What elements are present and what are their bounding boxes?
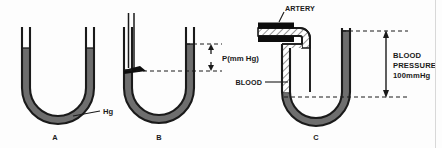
manometer-figure: Hg A <box>0 0 442 148</box>
hg-label: Hg <box>103 107 113 116</box>
blood-label: BLOOD <box>236 78 262 87</box>
artery-label: ARTERY <box>285 4 315 13</box>
panel-a-label: A <box>52 133 58 142</box>
blood-pressure-label-line1: BLOOD <box>393 51 422 60</box>
figure-background <box>0 0 442 148</box>
artery-cuff-bottom <box>258 36 294 42</box>
artery-cuff-top <box>258 23 294 29</box>
blood-pressure-label-line3: 100mmHg <box>393 71 431 80</box>
panel-b-pressure-label: P(mm Hg) <box>222 54 259 63</box>
blood-pressure-label-line2: PRESSURE <box>393 61 436 70</box>
panel-b-label: B <box>156 133 161 142</box>
panel-c-label: C <box>313 133 319 142</box>
manometer-diagram-svg: Hg A <box>0 0 442 148</box>
